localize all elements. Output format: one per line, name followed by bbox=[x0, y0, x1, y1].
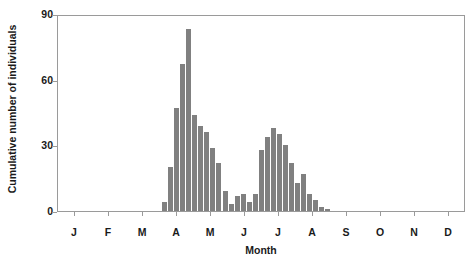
bar bbox=[210, 148, 215, 211]
x-tick-label: A bbox=[166, 226, 186, 238]
bar bbox=[283, 145, 288, 211]
x-tick-label: M bbox=[132, 226, 152, 238]
bar bbox=[247, 202, 252, 211]
x-tick-label: M bbox=[200, 226, 220, 238]
x-tick-label: D bbox=[438, 226, 458, 238]
x-tick-mark bbox=[448, 212, 449, 216]
bar bbox=[174, 108, 179, 211]
y-tick-label: 60 bbox=[7, 75, 53, 86]
bar bbox=[259, 150, 264, 211]
x-tick-mark bbox=[380, 212, 381, 216]
bar bbox=[313, 200, 318, 211]
x-tick-label: S bbox=[336, 226, 356, 238]
bar bbox=[277, 134, 282, 211]
bar bbox=[235, 196, 240, 211]
bar bbox=[265, 137, 270, 211]
bar bbox=[325, 209, 330, 211]
x-tick-mark bbox=[414, 212, 415, 216]
x-tick-mark bbox=[210, 212, 211, 216]
bar bbox=[289, 163, 294, 211]
x-tick-label: O bbox=[370, 226, 390, 238]
x-tick-mark bbox=[244, 212, 245, 216]
bar bbox=[223, 191, 228, 211]
x-tick-mark bbox=[346, 212, 347, 216]
bar bbox=[301, 174, 306, 211]
bar bbox=[216, 163, 221, 211]
x-tick-label: J bbox=[64, 226, 84, 238]
x-tick-mark bbox=[312, 212, 313, 216]
x-tick-label: J bbox=[268, 226, 288, 238]
bar bbox=[271, 128, 276, 211]
bar-chart-figure: Cumulative number of individuals 0306090… bbox=[0, 0, 476, 266]
bar bbox=[241, 194, 246, 212]
bar bbox=[198, 126, 203, 211]
bar bbox=[295, 183, 300, 211]
x-tick-mark bbox=[108, 212, 109, 216]
bar bbox=[319, 207, 324, 211]
bar bbox=[186, 29, 191, 211]
x-tick-label: N bbox=[404, 226, 424, 238]
x-axis-title: Month bbox=[57, 244, 465, 256]
x-tick-label: A bbox=[302, 226, 322, 238]
y-tick-label: 30 bbox=[7, 140, 53, 151]
plot-area bbox=[58, 16, 464, 211]
bar bbox=[307, 194, 312, 212]
bar bbox=[253, 194, 258, 212]
plot-frame bbox=[57, 15, 465, 212]
bar bbox=[168, 167, 173, 211]
x-tick-mark bbox=[142, 212, 143, 216]
x-tick-mark bbox=[74, 212, 75, 216]
x-tick-label: J bbox=[234, 226, 254, 238]
x-tick-mark bbox=[176, 212, 177, 216]
bar bbox=[192, 115, 197, 211]
y-tick-label: 0 bbox=[7, 206, 53, 217]
x-tick-mark bbox=[278, 212, 279, 216]
bar bbox=[229, 204, 234, 211]
bar bbox=[180, 64, 185, 211]
x-axis-ticks: JFMAMJJASOND bbox=[57, 212, 465, 246]
y-axis-ticks: 0306090 bbox=[0, 0, 53, 266]
x-tick-label: F bbox=[98, 226, 118, 238]
bar bbox=[204, 132, 209, 211]
bar bbox=[162, 202, 167, 211]
y-tick-label: 90 bbox=[7, 9, 53, 20]
